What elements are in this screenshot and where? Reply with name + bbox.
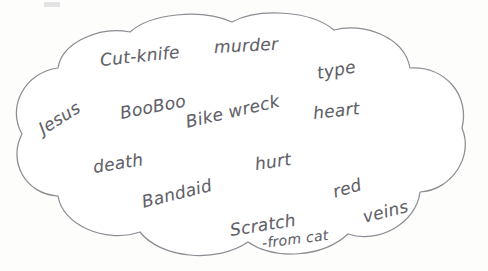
word-cloud-canvas: Cut-knife murder type Jesus BooBoo Bike … [0,0,488,271]
word-item: murder [213,34,278,57]
